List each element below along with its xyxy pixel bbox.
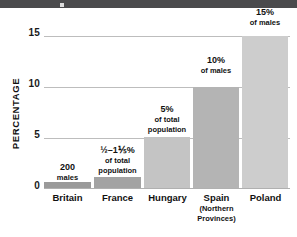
bar-annotation-poland-value: 15% — [239, 7, 291, 18]
xlabel-poland: Poland — [238, 192, 293, 204]
xlabel-britain: Britain — [40, 192, 95, 204]
bar-annotation-hungary-note-line1: of total — [141, 115, 193, 125]
bar-annotation-france: ½–1⅕% of total population — [92, 145, 143, 175]
chart-figure: 15 10 5 0 PERCENTAGE 200 males ½–1⅕% of … — [0, 0, 297, 237]
bar-annotation-poland: 15% of males — [239, 7, 291, 28]
bar-poland — [242, 36, 288, 188]
bar-annotation-france-note-line2: population — [92, 166, 143, 176]
bar-annotation-spain: 10% of males — [190, 55, 242, 76]
bar-annotation-hungary: 5% of total population — [141, 104, 193, 134]
bar-annotation-hungary-value: 5% — [141, 104, 193, 115]
bar-britain — [44, 182, 91, 188]
xlabel-france: France — [90, 192, 145, 204]
ytick-label-15: 15 — [14, 27, 40, 38]
xlabel-france-text: France — [102, 192, 133, 203]
bar-annotation-hungary-note-line2: population — [141, 125, 193, 135]
bar-annotation-britain-note: males — [44, 173, 91, 183]
xlabel-britain-text: Britain — [52, 192, 82, 203]
xlabel-spain: Spain (Northern Provinces) — [189, 192, 244, 224]
plot-area: 15 10 5 0 PERCENTAGE 200 males ½–1⅕% of … — [0, 0, 297, 237]
bar-annotation-france-note-line1: of total — [92, 156, 143, 166]
y-axis-title: PERCENTAGE — [10, 61, 21, 167]
bar-annotation-france-value: ½–1⅕% — [92, 145, 143, 156]
bar-hungary — [144, 137, 190, 188]
bar-france — [94, 177, 141, 188]
xlabel-hungary: Hungary — [140, 192, 195, 204]
ytick-label-0: 0 — [14, 180, 40, 191]
bar-annotation-spain-value: 10% — [190, 55, 242, 66]
xlabel-spain-sublabel-line2: Provinces) — [189, 214, 244, 224]
xlabel-poland-text: Poland — [250, 192, 282, 203]
xlabel-hungary-text: Hungary — [148, 192, 187, 203]
bar-annotation-poland-note: of males — [239, 18, 291, 28]
xlabel-spain-sublabel-line1: (Northern — [189, 204, 244, 214]
axis-baseline-0 — [44, 188, 290, 189]
bar-annotation-britain: 200 males — [44, 162, 91, 183]
bar-spain — [193, 87, 239, 188]
xlabel-spain-text: Spain — [204, 192, 230, 203]
bar-annotation-britain-value: 200 — [44, 162, 91, 173]
bar-annotation-spain-note: of males — [190, 66, 242, 76]
